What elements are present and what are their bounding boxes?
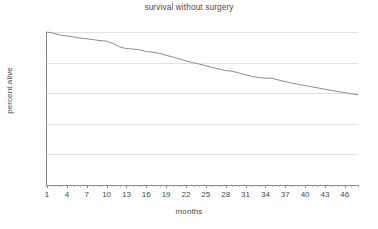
x-tick-8 [93, 185, 94, 187]
x-tick-36 [279, 185, 280, 187]
x-tick-19 [166, 185, 167, 188]
x-tick-5 [74, 185, 75, 187]
x-tick-11 [113, 185, 114, 187]
y-axis-label: percent alive [5, 61, 14, 121]
x-tick-30 [239, 185, 240, 187]
x-tick-21 [179, 185, 180, 187]
x-tick-24 [199, 185, 200, 187]
x-tick-20 [173, 185, 174, 187]
x-tick-37 [285, 185, 286, 188]
x-tick-32 [252, 185, 253, 187]
x-tick-label-25: 25 [196, 190, 216, 199]
x-tick-33 [259, 185, 260, 187]
x-tick-40 [305, 185, 306, 188]
x-tick-label-13: 13 [116, 190, 136, 199]
x-tick-39 [298, 185, 299, 187]
x-tick-12 [120, 185, 121, 187]
x-tick-18 [160, 185, 161, 187]
x-tick-label-16: 16 [136, 190, 156, 199]
x-tick-27 [219, 185, 220, 187]
x-tick-43 [325, 185, 326, 188]
chart-title: survival without surgery [0, 3, 378, 12]
x-tick-label-46: 46 [335, 190, 355, 199]
x-tick-45 [338, 185, 339, 187]
x-tick-28 [226, 185, 227, 188]
x-tick-15 [140, 185, 141, 187]
x-tick-label-1: 1 [37, 190, 57, 199]
x-tick-2 [54, 185, 55, 187]
x-tick-label-22: 22 [176, 190, 196, 199]
x-tick-47 [351, 185, 352, 187]
x-tick-label-19: 19 [156, 190, 176, 199]
x-tick-3 [60, 185, 61, 187]
x-tick-29 [232, 185, 233, 187]
x-tick-14 [133, 185, 134, 187]
x-tick-42 [318, 185, 319, 187]
x-tick-25 [206, 185, 207, 188]
survival-curve [47, 32, 358, 185]
x-tick-26 [212, 185, 213, 187]
x-tick-23 [193, 185, 194, 187]
x-tick-label-43: 43 [315, 190, 335, 199]
x-tick-1 [47, 185, 48, 188]
x-tick-label-37: 37 [275, 190, 295, 199]
x-tick-label-4: 4 [57, 190, 77, 199]
x-tick-38 [292, 185, 293, 187]
x-tick-16 [146, 185, 147, 188]
x-axis-label: months [0, 207, 378, 216]
x-tick-46 [345, 185, 346, 188]
x-tick-label-10: 10 [97, 190, 117, 199]
x-tick-7 [87, 185, 88, 188]
x-tick-4 [67, 185, 68, 188]
x-tick-41 [312, 185, 313, 187]
x-tick-label-31: 31 [236, 190, 256, 199]
x-tick-9 [100, 185, 101, 187]
x-tick-34 [265, 185, 266, 188]
x-tick-31 [246, 185, 247, 188]
x-tick-10 [107, 185, 108, 188]
survival-chart-figure: survival without surgery percent alive m… [0, 0, 378, 229]
x-tick-label-28: 28 [216, 190, 236, 199]
plot-area: 5060708090100 14710131619222528313437404… [47, 32, 358, 185]
x-tick-label-7: 7 [77, 190, 97, 199]
x-tick-44 [332, 185, 333, 187]
x-tick-22 [186, 185, 187, 188]
x-tick-13 [126, 185, 127, 188]
x-tick-label-34: 34 [255, 190, 275, 199]
x-tick-label-40: 40 [295, 190, 315, 199]
x-tick-35 [272, 185, 273, 187]
x-tick-6 [80, 185, 81, 187]
x-tick-17 [153, 185, 154, 187]
x-tick-48 [358, 185, 359, 187]
